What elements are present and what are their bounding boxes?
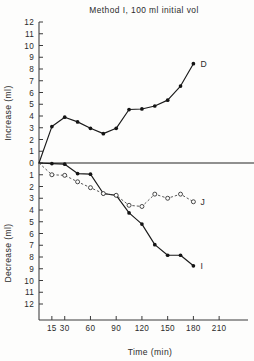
data-series-group — [39, 62, 195, 268]
data-point-J — [127, 203, 131, 207]
series-label-J: J — [200, 197, 204, 207]
data-point-D — [127, 108, 131, 112]
y-axis-lower-ticks: 123456789101112 — [24, 171, 43, 309]
y-axis-upper-tick-label: 11 — [25, 30, 34, 39]
data-point-I — [127, 211, 131, 215]
chart-figure: Method I, 100 ml initial vol 01234567891… — [0, 0, 254, 361]
data-point-D — [153, 104, 157, 108]
y-axis-upper-tick-label: 6 — [29, 89, 34, 98]
data-point-D — [166, 98, 170, 102]
data-point-D — [179, 84, 183, 88]
data-point-J — [114, 193, 118, 197]
data-point-D — [76, 120, 80, 124]
y-axis-upper-tick-label: 9 — [29, 53, 34, 62]
data-point-J — [140, 204, 144, 208]
y-axis-lower-tick-label: 12 — [24, 300, 34, 309]
axis-lines — [39, 22, 254, 320]
series-line-J — [39, 163, 193, 206]
data-point-D — [50, 125, 54, 129]
y-axis-lower-tick-label: 9 — [29, 265, 34, 274]
data-point-J — [101, 192, 105, 196]
x-axis-tick-label: 180 — [186, 324, 201, 333]
data-point-I — [50, 162, 54, 166]
data-point-I — [192, 264, 196, 268]
chart-title: Method I, 100 ml initial vol — [89, 5, 198, 15]
data-point-J — [166, 196, 170, 200]
data-point-D — [140, 107, 144, 111]
y-axis-lower-tick-label: 10 — [24, 277, 34, 286]
y-axis-lower-title: Decrease (ml) — [3, 223, 13, 282]
data-point-I — [166, 253, 170, 257]
y-axis-upper-tick-label: 4 — [29, 112, 34, 121]
data-point-D — [63, 115, 67, 119]
series-line-I — [39, 163, 193, 266]
data-point-I — [153, 243, 157, 247]
x-axis-title: Time (min) — [128, 347, 173, 357]
y-axis-lower-tick-label: 6 — [29, 230, 34, 239]
x-axis-tick-label: 15 — [47, 324, 57, 333]
y-axis-lower-tick-label: 1 — [29, 171, 34, 180]
y-axis-lower-tick-label: 2 — [29, 183, 34, 192]
y-axis-lower-tick-label: 4 — [29, 206, 34, 215]
y-axis-lower-tick-label: 11 — [25, 288, 34, 297]
y-axis-upper-tick-label: 3 — [29, 124, 34, 133]
series-J — [39, 163, 195, 208]
y-axis-lower-tick-label: 7 — [29, 241, 34, 250]
y-axis-lower-tick-label: 8 — [29, 253, 34, 262]
data-point-D — [114, 126, 118, 130]
series-label-D: D — [200, 59, 206, 69]
series-D — [39, 62, 195, 163]
data-point-J — [191, 200, 195, 204]
chart-plot-svg: Method I, 100 ml initial vol 01234567891… — [0, 0, 254, 361]
x-axis-tick-label: 90 — [111, 324, 121, 333]
data-point-J — [153, 192, 157, 196]
y-axis-upper-tick-label: 0 — [29, 159, 34, 168]
series-labels-group: DIJ — [200, 59, 206, 271]
y-axis-upper-tick-label: 8 — [29, 65, 34, 74]
chart-title-group: Method I, 100 ml initial vol — [89, 5, 198, 15]
y-axis-lower-tick-label: 3 — [29, 194, 34, 203]
y-axis-upper-tick-label: 12 — [24, 18, 34, 27]
data-point-I — [140, 222, 144, 226]
y-axis-upper-ticks: 0123456789101112 — [24, 18, 43, 168]
data-point-I — [76, 172, 80, 176]
x-axis-tick-label: 30 — [60, 324, 70, 333]
data-point-J — [50, 173, 54, 177]
data-point-D — [101, 132, 105, 136]
y-axis-upper-tick-label: 1 — [29, 147, 34, 156]
y-axis-upper-tick-label: 5 — [29, 100, 34, 109]
series-label-I: I — [200, 261, 202, 271]
series-I — [39, 162, 195, 268]
data-point-I — [89, 172, 93, 176]
data-point-J — [179, 192, 183, 196]
series-line-D — [39, 64, 193, 163]
x-axis-tick-label: 60 — [86, 324, 96, 333]
y-axis-upper-tick-label: 2 — [29, 136, 34, 145]
y-axis-upper-tick-label: 7 — [29, 77, 34, 86]
data-point-I — [179, 253, 183, 257]
data-point-J — [76, 180, 80, 184]
data-point-D — [89, 126, 93, 130]
data-point-I — [63, 162, 67, 166]
data-point-D — [192, 62, 196, 66]
x-axis-tick-label: 210 — [212, 324, 227, 333]
y-axis-upper-title: Increase (ml) — [3, 85, 13, 140]
x-axis-ticks: 15306090120150180210 — [47, 316, 227, 333]
x-axis-tick-label: 150 — [160, 324, 175, 333]
x-axis-tick-label: 120 — [135, 324, 150, 333]
y-axis-lower-tick-label: 5 — [29, 218, 34, 227]
y-axis-upper-tick-label: 10 — [24, 42, 34, 51]
data-point-J — [88, 186, 92, 190]
data-point-J — [63, 173, 67, 177]
